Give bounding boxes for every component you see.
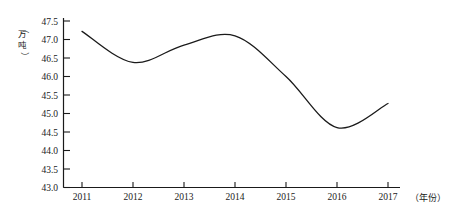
y-unit-char: 吨 — [18, 40, 27, 50]
y-axis-tick-labels: 47.5 47.0 46.5 46.0 45.5 45.0 44.5 44.0 … — [41, 17, 58, 194]
y-unit-char: ） — [20, 52, 30, 61]
y-tick-label: 45.5 — [41, 91, 58, 101]
y-tick-label: 46.5 — [41, 54, 58, 64]
x-axis-unit-label: （年份） — [410, 192, 446, 203]
y-tick-label: 46.0 — [41, 72, 58, 82]
y-unit-char: 万 — [18, 29, 27, 39]
x-tick-label: 2015 — [277, 192, 296, 202]
y-tick-label: 44.5 — [41, 128, 58, 138]
data-series-line — [82, 31, 388, 128]
x-axis-ticks — [82, 182, 388, 188]
x-tick-label: 2014 — [226, 192, 245, 202]
x-tick-label: 2011 — [73, 192, 92, 202]
y-tick-label: 43.5 — [41, 165, 58, 175]
x-axis-tick-labels: 2011 2012 2013 2014 2015 2016 2017 — [73, 192, 398, 202]
y-tick-label: 43.0 — [41, 183, 58, 193]
x-tick-label: 2017 — [379, 192, 398, 202]
y-axis-unit-label: （ 万 吨 ） — [18, 25, 30, 61]
y-tick-label: 47.0 — [41, 35, 58, 45]
x-tick-label: 2016 — [328, 192, 347, 202]
x-tick-label: 2013 — [175, 192, 194, 202]
y-tick-label: 47.5 — [41, 17, 58, 27]
x-tick-label: 2012 — [124, 192, 143, 202]
chart-canvas: 47.5 47.0 46.5 46.0 45.5 45.0 44.5 44.0 … — [0, 0, 464, 220]
y-tick-label: 45.0 — [41, 109, 58, 119]
y-tick-label: 44.0 — [41, 146, 58, 156]
line-chart: 47.5 47.0 46.5 46.0 45.5 45.0 44.5 44.0 … — [0, 0, 464, 220]
y-axis-ticks — [64, 21, 71, 188]
